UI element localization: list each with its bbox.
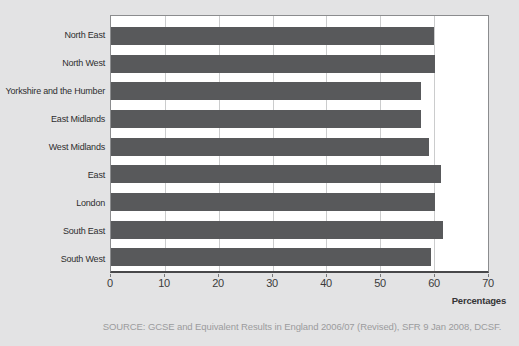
category-label: London [0,189,110,217]
category-axis-labels: North EastNorth WestYorkshire and the Hu… [0,15,110,273]
bar [111,193,435,211]
x-axis-title: Percentages [452,295,506,306]
bar [111,165,441,183]
x-axis: 010203040506070 [110,274,488,292]
bar [111,82,421,100]
category-label: East Midlands [0,105,110,133]
bar-row [111,50,488,78]
category-label: North East [0,21,110,49]
bar-rows [111,16,488,271]
category-label: North West [0,49,110,77]
tick-label: 0 [107,277,113,289]
bar [111,138,429,156]
category-label: West Midlands [0,133,110,161]
source-note: SOURCE: GCSE and Equivalent Results in E… [90,321,514,332]
category-label: East [0,161,110,189]
tick-label: 60 [428,277,440,289]
bar-row [111,22,488,50]
bar-row [111,188,488,216]
bar [111,27,434,45]
bar [111,248,431,266]
category-label: Yorkshire and the Humber [0,77,110,105]
bar-row [111,105,488,133]
bar [111,221,443,239]
bar-row [111,216,488,244]
plot-area [110,15,489,273]
tick-label: 70 [482,277,494,289]
tick-label: 50 [374,277,386,289]
category-label: South West [0,245,110,273]
bar-row [111,77,488,105]
bar-row [111,243,488,271]
bar-row [111,160,488,188]
chart-page: North EastNorth WestYorkshire and the Hu… [0,0,519,346]
tick-label: 10 [158,277,170,289]
tick-label: 40 [320,277,332,289]
bar-row [111,133,488,161]
tick-label: 20 [212,277,224,289]
bar [111,55,435,73]
category-label: South East [0,217,110,245]
bar [111,110,421,128]
bar-chart: North EastNorth WestYorkshire and the Hu… [0,15,489,273]
tick-label: 30 [266,277,278,289]
